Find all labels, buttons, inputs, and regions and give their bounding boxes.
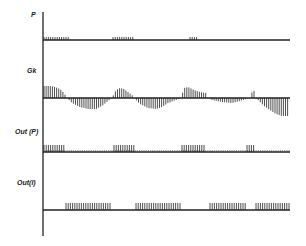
channel-out-p bbox=[43, 145, 290, 152]
channel-label-gk: Gk bbox=[27, 67, 36, 74]
channel-label-out-p: Out (P) bbox=[15, 128, 38, 135]
gk-label-text: Gk bbox=[27, 67, 36, 74]
signal-channels bbox=[43, 37, 290, 210]
channel-label-p: P bbox=[31, 11, 36, 18]
timing-diagram bbox=[0, 0, 306, 246]
channel-label-out-i: Out(I) bbox=[17, 179, 36, 186]
channel-p bbox=[43, 37, 290, 40]
channel-gk bbox=[43, 86, 290, 116]
channel-out-i bbox=[43, 203, 290, 210]
